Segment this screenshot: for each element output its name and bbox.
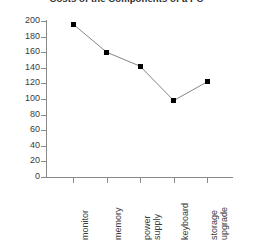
y-tick-mark: [41, 21, 46, 22]
y-tick-mark: [41, 37, 46, 38]
y-tick-label: 0: [10, 172, 40, 181]
y-tick-label-wrap: 20: [8, 156, 40, 165]
x-tick-mark: [207, 178, 208, 183]
x-axis-label-line: monitor: [72, 186, 82, 240]
y-tick-label: 100: [10, 94, 40, 103]
data-point-power-supply: [138, 64, 143, 69]
x-axis-label-line: upgrade: [211, 186, 221, 240]
y-tick-mark: [41, 161, 46, 162]
y-tick-mark: [41, 146, 46, 147]
x-tick-mark: [174, 178, 175, 183]
chart-screenshot: Costs of the Components of a PC 20018016…: [0, 0, 253, 243]
y-tick-label-wrap: 140: [8, 63, 40, 72]
y-tick-label-wrap: 0: [8, 172, 40, 181]
y-tick-mark: [41, 177, 46, 178]
y-tick-mark: [41, 68, 46, 69]
y-tick-label: 180: [10, 32, 40, 41]
y-tick-label: 20: [10, 156, 40, 165]
x-axis-label-group: monitor: [72, 186, 82, 240]
x-axis-label: keyboard: [180, 203, 190, 240]
x-tick-mark: [107, 178, 108, 183]
y-tick-label: 200: [10, 16, 40, 25]
x-axis-label: supply: [152, 214, 162, 240]
chart-title: Costs of the Components of a PC: [0, 0, 253, 4]
data-point-keyboard: [171, 98, 176, 103]
y-tick-mark: [41, 83, 46, 84]
y-tick-label-wrap: 200: [8, 16, 40, 25]
x-axis-label: monitor: [80, 210, 90, 240]
y-tick-label-wrap: 40: [8, 141, 40, 150]
y-tick-label-wrap: 100: [8, 94, 40, 103]
x-tick-mark: [73, 178, 74, 183]
x-axis-label-group: keyboard: [172, 186, 182, 240]
y-tick-label: 140: [10, 63, 40, 72]
y-tick-label-wrap: 160: [8, 47, 40, 56]
y-tick-mark: [41, 52, 46, 53]
y-axis-line: [46, 20, 47, 178]
x-axis-label: memory: [113, 207, 123, 240]
y-tick-label: 120: [10, 78, 40, 87]
x-tick-mark: [140, 178, 141, 183]
x-axis-label-group: memory: [105, 186, 115, 240]
y-tick-label-wrap: 60: [8, 125, 40, 134]
x-axis-label-line: power: [134, 186, 144, 240]
data-point-memory: [104, 50, 109, 55]
y-tick-label-wrap: 180: [8, 32, 40, 41]
x-axis-label-group: storageupgrade: [201, 186, 221, 240]
data-point-storage-upgrade: [205, 79, 210, 84]
x-axis-label-group: powersupply: [134, 186, 154, 240]
y-tick-label-wrap: 120: [8, 78, 40, 87]
y-tick-label-wrap: 80: [8, 110, 40, 119]
x-axis-label: upgrade: [219, 207, 229, 240]
x-axis-label-line: keyboard: [172, 186, 182, 240]
x-axis-label-line: storage: [201, 186, 211, 240]
y-tick-label: 40: [10, 141, 40, 150]
data-point-monitor: [71, 22, 76, 27]
x-axis-label-line: supply: [144, 186, 154, 240]
y-tick-label: 160: [10, 47, 40, 56]
y-tick-mark: [41, 130, 46, 131]
y-tick-mark: [41, 115, 46, 116]
y-tick-label: 80: [10, 110, 40, 119]
y-tick-mark: [41, 99, 46, 100]
x-axis-label-line: memory: [105, 186, 115, 240]
y-tick-label: 60: [10, 125, 40, 134]
